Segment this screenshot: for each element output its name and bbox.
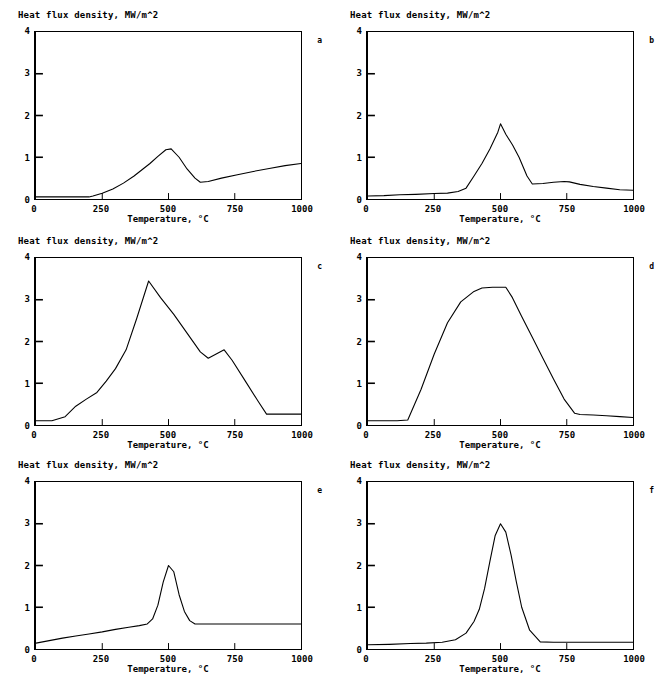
y-tick-label: 4 xyxy=(14,476,30,486)
x-tick-label: 750 xyxy=(215,654,255,664)
y-tick-label: 2 xyxy=(346,337,362,347)
x-tick-label: 0 xyxy=(14,430,54,440)
x-tick-label: 250 xyxy=(81,654,121,664)
chart-panel-a: Heat flux density, MW/m^2012340250500750… xyxy=(0,0,332,226)
x-tick-label: 750 xyxy=(547,430,587,440)
y-tick-label: 2 xyxy=(14,561,30,571)
y-tick-label: 4 xyxy=(14,252,30,262)
x-tick-label: 1000 xyxy=(282,654,322,664)
data-curve xyxy=(36,566,301,644)
y-tick-label: 3 xyxy=(14,518,30,528)
x-tick-label: 250 xyxy=(413,654,453,664)
x-tick-label: 250 xyxy=(81,430,121,440)
data-curve xyxy=(368,524,633,645)
figure-root: Heat flux density, MW/m^2012340250500750… xyxy=(0,0,664,674)
data-curve xyxy=(36,149,301,197)
y-tick-label: 3 xyxy=(346,294,362,304)
x-tick-label: 500 xyxy=(148,654,188,664)
y-tick-label: 2 xyxy=(346,561,362,571)
x-tick-label: 0 xyxy=(14,204,54,214)
chart-panel-f: Heat flux density, MW/m^2012340250500750… xyxy=(332,450,664,674)
plot-area xyxy=(34,257,302,426)
x-tick-label: 250 xyxy=(413,204,453,214)
y-tick-label: 1 xyxy=(14,603,30,613)
plot-area xyxy=(34,31,302,200)
x-tick-label: 750 xyxy=(547,204,587,214)
y-axis-title: Heat flux density, MW/m^2 xyxy=(18,10,158,20)
curve-svg xyxy=(368,32,633,199)
x-axis-title: Temperature, °C xyxy=(366,440,634,450)
curve-svg xyxy=(368,258,633,425)
y-tick-label: 3 xyxy=(14,294,30,304)
x-tick-label: 750 xyxy=(215,204,255,214)
x-tick-label: 1000 xyxy=(282,204,322,214)
chart-panel-d: Heat flux density, MW/m^2012340250500750… xyxy=(332,226,664,452)
chart-panel-b: Heat flux density, MW/m^2012340250500750… xyxy=(332,0,664,226)
plot-area xyxy=(366,31,634,200)
x-tick-label: 1000 xyxy=(282,430,322,440)
plot-area xyxy=(34,481,302,650)
x-tick-label: 500 xyxy=(480,430,520,440)
plot-area xyxy=(366,481,634,650)
panel-letter: c xyxy=(317,262,322,271)
x-tick-label: 500 xyxy=(480,204,520,214)
x-tick-label: 1000 xyxy=(614,654,654,664)
y-axis-title: Heat flux density, MW/m^2 xyxy=(18,236,158,246)
y-tick-label: 1 xyxy=(346,153,362,163)
y-tick-label: 4 xyxy=(346,476,362,486)
x-tick-label: 500 xyxy=(480,654,520,664)
data-curve xyxy=(36,281,301,421)
panel-letter: a xyxy=(317,36,322,45)
curve-svg xyxy=(36,32,301,199)
y-tick-label: 1 xyxy=(14,379,30,389)
x-axis-title: Temperature, °C xyxy=(34,440,302,450)
y-axis-title: Heat flux density, MW/m^2 xyxy=(18,460,158,470)
y-tick-label: 2 xyxy=(14,337,30,347)
x-tick-label: 500 xyxy=(148,430,188,440)
y-tick-label: 4 xyxy=(14,26,30,36)
y-axis-title: Heat flux density, MW/m^2 xyxy=(350,460,490,470)
x-tick-label: 1000 xyxy=(614,430,654,440)
panel-letter: b xyxy=(649,36,654,45)
y-tick-label: 2 xyxy=(346,111,362,121)
y-tick-label: 1 xyxy=(346,379,362,389)
panel-letter: d xyxy=(649,262,654,271)
y-tick-label: 3 xyxy=(346,68,362,78)
x-tick-label: 0 xyxy=(346,430,386,440)
curve-svg xyxy=(36,258,301,425)
y-tick-label: 2 xyxy=(14,111,30,121)
y-tick-label: 1 xyxy=(346,603,362,613)
curve-svg xyxy=(368,482,633,649)
y-tick-label: 4 xyxy=(346,252,362,262)
data-curve xyxy=(368,287,633,421)
x-tick-label: 750 xyxy=(215,430,255,440)
chart-panel-c: Heat flux density, MW/m^2012340250500750… xyxy=(0,226,332,452)
panel-letter: e xyxy=(317,486,322,495)
x-tick-label: 750 xyxy=(547,654,587,664)
data-curve xyxy=(368,124,633,196)
y-tick-label: 3 xyxy=(14,68,30,78)
x-tick-label: 0 xyxy=(346,654,386,664)
plot-area xyxy=(366,257,634,426)
x-tick-label: 250 xyxy=(81,204,121,214)
y-axis-title: Heat flux density, MW/m^2 xyxy=(350,236,490,246)
x-axis-title: Temperature, °C xyxy=(366,664,634,674)
x-tick-label: 500 xyxy=(148,204,188,214)
panel-letter: f xyxy=(649,486,654,495)
y-tick-label: 4 xyxy=(346,26,362,36)
y-axis-title: Heat flux density, MW/m^2 xyxy=(350,10,490,20)
y-tick-label: 1 xyxy=(14,153,30,163)
x-tick-label: 1000 xyxy=(614,204,654,214)
x-axis-title: Temperature, °C xyxy=(366,214,634,224)
curve-svg xyxy=(36,482,301,649)
x-tick-label: 0 xyxy=(14,654,54,664)
x-axis-title: Temperature, °C xyxy=(34,664,302,674)
x-tick-label: 250 xyxy=(413,430,453,440)
chart-panel-e: Heat flux density, MW/m^2012340250500750… xyxy=(0,450,332,674)
x-tick-label: 0 xyxy=(346,204,386,214)
x-axis-title: Temperature, °C xyxy=(34,214,302,224)
y-tick-label: 3 xyxy=(346,518,362,528)
